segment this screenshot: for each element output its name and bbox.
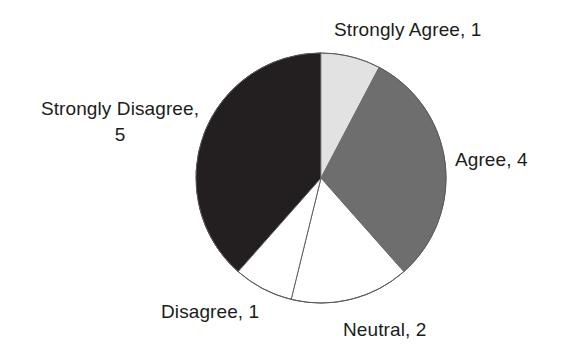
slice-label-neutral: Neutral, 2 — [343, 318, 426, 342]
slice-label-strongly-disagree-line2: 5 — [115, 124, 126, 145]
slice-label-agree: Agree, 4 — [455, 148, 528, 172]
slice-label-strongly-agree: Strongly Agree, 1 — [334, 18, 481, 42]
slice-label-disagree: Disagree, 1 — [161, 300, 259, 324]
pie-chart-graphic — [0, 0, 566, 351]
slice-label-strongly-disagree: Strongly Disagree, 5 — [22, 96, 218, 148]
slice-label-strongly-disagree-line1: Strongly Disagree, — [41, 98, 199, 119]
pie-chart-figure: Strongly Agree, 1 Agree, 4 Strongly Disa… — [0, 0, 566, 351]
pie-slices — [196, 53, 446, 303]
